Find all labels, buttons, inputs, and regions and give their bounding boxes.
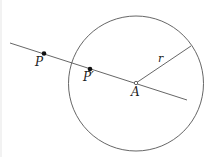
- label-a: A: [130, 85, 140, 99]
- inversion-diagram: P P′ A r: [0, 0, 210, 157]
- label-p: P: [34, 55, 44, 69]
- label-radius: r: [158, 52, 164, 65]
- label-p-prime: P′: [82, 70, 94, 84]
- radius-segment: [136, 46, 191, 83]
